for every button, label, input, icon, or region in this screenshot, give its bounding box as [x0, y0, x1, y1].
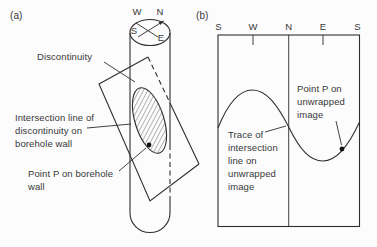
- trace-label-line3: line on: [228, 155, 257, 166]
- intersection-label-line3: borehole wall: [15, 138, 72, 149]
- axis-n-label: N: [285, 21, 292, 32]
- trace-leader-line: [265, 126, 286, 132]
- trace-label-line4: unwrapped: [228, 168, 276, 179]
- point-p-unwrapped-dot: [340, 147, 345, 152]
- compass-n-label: N: [157, 6, 164, 17]
- trace-label-line5: image: [228, 181, 254, 192]
- intersection-label-line2: discontinuity on: [15, 125, 82, 136]
- compass-we-axis: [136, 23, 158, 37]
- cylinder-bottom: [130, 213, 170, 233]
- point-p-unwrapped-leader-line: [336, 121, 342, 145]
- figure-borehole-discontinuity: (a) W N S E: [0, 0, 377, 247]
- panel-b: (b) S W N E S Point P on unwrapped image…: [196, 10, 361, 227]
- intersection-leader-line: [87, 124, 131, 128]
- point-p-unwrapped-label-line2: unwrapped: [297, 96, 345, 107]
- point-p-label-line1: Point P on borehole: [28, 168, 113, 179]
- panel-b-label: (b): [196, 10, 209, 21]
- compass-e-label: E: [158, 32, 164, 43]
- compass: W N S E: [131, 6, 164, 43]
- point-p-unwrapped-label-line1: Point P on: [297, 83, 342, 94]
- panel-a: (a) W N S E: [10, 6, 199, 233]
- trace-label-line1: Trace of: [228, 129, 264, 140]
- plane-right-edge: [170, 103, 199, 164]
- panel-a-annotations: Discontinuity Intersection line of disco…: [15, 51, 146, 192]
- point-p-dot: [147, 143, 152, 148]
- discontinuity-label: Discontinuity: [37, 51, 92, 62]
- figure-canvas: (a) W N S E: [0, 0, 377, 247]
- point-p-leader-line: [119, 148, 146, 171]
- axis-s-right-label: S: [354, 21, 360, 32]
- trace-label-line2: intersection: [228, 142, 278, 153]
- compass-s-label: S: [131, 25, 137, 36]
- axis-w-label: W: [248, 21, 257, 32]
- orientation-scale: S W N E S: [215, 21, 360, 32]
- intersection-label-line1: Intersection line of: [15, 112, 94, 123]
- point-p-unwrapped-label-line3: image: [297, 109, 323, 120]
- axis-s-left-label: S: [215, 21, 221, 32]
- panel-b-annotations: Point P on unwrapped image Trace of inte…: [228, 83, 345, 192]
- compass-w-label: W: [132, 6, 141, 17]
- panel-a-label: (a): [10, 10, 23, 21]
- point-p-label-line2: wall: [27, 181, 45, 192]
- axis-e-label: E: [320, 21, 326, 32]
